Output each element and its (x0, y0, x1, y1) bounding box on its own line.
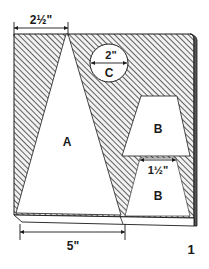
c-diameter-label: 2" (105, 49, 116, 61)
cutting-diagram: 2½" 5" 1½" 2" C A B B 1 (0, 0, 209, 269)
piece-c-label: C (105, 66, 114, 80)
piece-b-upper-label: B (154, 122, 163, 136)
figure-number: 1 (187, 242, 194, 257)
dimension-b-label: 1½" (148, 164, 169, 176)
piece-a-label: A (63, 135, 72, 149)
dimension-bottom (20, 224, 125, 240)
piece-b-lower-label: B (154, 189, 163, 203)
dimension-top-label: 2½" (30, 13, 52, 27)
dimension-bottom-label: 5" (67, 239, 79, 253)
